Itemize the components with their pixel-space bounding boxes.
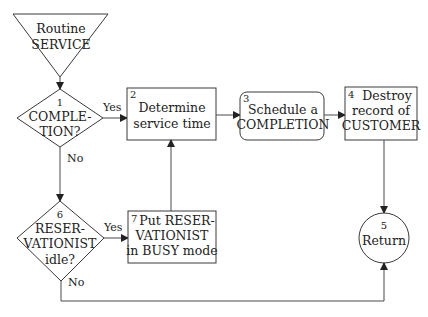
process-2-label-line-2: service time bbox=[133, 116, 211, 131]
decision-1-number: 1 bbox=[57, 97, 63, 108]
process-3-label-line-2: COMPLETION bbox=[237, 117, 330, 132]
process-4-destroy-customer-record: 4 Destroy record of CUSTOMER bbox=[342, 87, 421, 140]
decision-6-label-line-3: idle? bbox=[45, 252, 75, 267]
arrow-decision-6-no-to-return bbox=[61, 263, 384, 301]
decision-1-no-label: No bbox=[67, 152, 84, 165]
process-7-put-reservationist-busy: 7 Put RESER- VATIONIST in BUSY mode bbox=[126, 211, 217, 263]
decision-1-completion: 1 COMPLE- TION? bbox=[17, 89, 103, 147]
flowchart: Routine SERVICE 1 COMPLE- TION? Yes No 2… bbox=[0, 0, 428, 317]
process-3-label-line-1: Schedule a bbox=[248, 102, 318, 117]
decision-6-label-line-2: VATIONIST bbox=[23, 236, 97, 251]
terminal-5-return: 5 Return bbox=[359, 213, 409, 263]
decision-1-yes-label: Yes bbox=[102, 101, 122, 114]
process-4-label-line-1: Destroy bbox=[362, 88, 412, 103]
start-label-line-2: SERVICE bbox=[31, 37, 90, 52]
process-2-determine-service-time: 2 Determine service time bbox=[127, 88, 216, 140]
process-2-number: 2 bbox=[130, 89, 136, 100]
start-terminal-routine-service: Routine SERVICE bbox=[13, 14, 108, 77]
decision-6-label-line-1: RESER- bbox=[35, 221, 85, 236]
decision-1-label-line-2: TION? bbox=[39, 124, 80, 139]
decision-1-label-line-1: COMPLE- bbox=[29, 109, 92, 124]
process-3-schedule-completion: 3 Schedule a COMPLETION bbox=[237, 92, 330, 140]
decision-6-no-label: No bbox=[68, 276, 85, 289]
process-2-label-line-1: Determine bbox=[138, 100, 205, 115]
decision-6-number: 6 bbox=[57, 209, 63, 220]
decision-6-reservationist-idle: 6 RESER- VATIONIST idle? bbox=[17, 201, 104, 281]
process-7-label-line-1: Put RESER- bbox=[139, 213, 214, 228]
terminal-5-number: 5 bbox=[381, 220, 387, 231]
process-4-label-line-2: record of bbox=[352, 103, 411, 118]
process-4-label-line-3: CUSTOMER bbox=[342, 118, 421, 133]
start-label-line-1: Routine bbox=[36, 21, 85, 36]
decision-6-yes-label: Yes bbox=[103, 221, 123, 234]
process-7-number: 7 bbox=[131, 213, 137, 224]
process-7-label-line-3: in BUSY mode bbox=[126, 243, 217, 258]
terminal-5-label: Return bbox=[362, 233, 406, 248]
process-4-number: 4 bbox=[348, 89, 354, 100]
process-7-label-line-2: VATIONIST bbox=[135, 228, 209, 243]
